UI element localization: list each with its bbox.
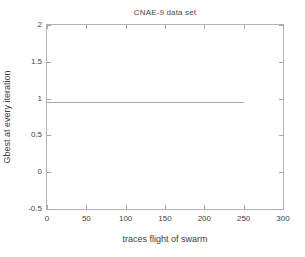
y-axis-tick <box>47 99 51 100</box>
y-axis-tick-mirror <box>279 135 283 136</box>
x-axis-tick <box>244 205 245 209</box>
y-axis-label: Gbest at every iteration <box>2 70 13 163</box>
y-tick-label: 1 <box>2 95 42 103</box>
series-segment <box>106 102 126 103</box>
y-axis-tick-mirror <box>279 209 283 210</box>
x-axis-tick <box>204 205 205 209</box>
y-axis-tick-mirror <box>279 99 283 100</box>
y-tick-label: 0.5 <box>2 131 42 139</box>
x-axis-tick-mirror <box>244 25 245 29</box>
plot-inner <box>47 25 283 209</box>
x-tick-label: 150 <box>150 215 180 223</box>
x-axis-tick-mirror <box>47 25 48 29</box>
x-tick-label: 100 <box>111 215 141 223</box>
x-axis-tick <box>86 205 87 209</box>
x-tick-label: 50 <box>71 215 101 223</box>
x-axis-tick-mirror <box>204 25 205 29</box>
y-axis-tick-mirror <box>279 172 283 173</box>
x-axis-tick <box>165 205 166 209</box>
x-tick-label: 300 <box>268 215 298 223</box>
y-tick-label: 1.5 <box>2 58 42 66</box>
x-axis-tick <box>126 205 127 209</box>
x-axis-tick-mirror <box>283 25 284 29</box>
series-segment <box>204 102 224 103</box>
x-axis-tick-mirror <box>126 25 127 29</box>
x-axis-label: traces flight of swarm <box>46 234 284 245</box>
series-segment <box>86 102 106 103</box>
x-axis-tick <box>283 205 284 209</box>
y-axis-label-container: Gbest at every iteration <box>0 24 14 210</box>
chart-title: CNAE-9 data set <box>46 8 284 18</box>
x-axis-tick-mirror <box>86 25 87 29</box>
x-tick-label: 200 <box>189 215 219 223</box>
y-axis-tick <box>47 172 51 173</box>
series-segment <box>224 102 244 103</box>
series-segment <box>185 102 205 103</box>
plot-area <box>46 24 284 210</box>
series-segment <box>47 102 67 103</box>
x-axis-tick <box>47 205 48 209</box>
y-axis-tick <box>47 62 51 63</box>
y-axis-tick <box>47 209 51 210</box>
y-tick-label: 2 <box>2 21 42 29</box>
y-tick-label: -0.5 <box>2 205 42 213</box>
x-tick-label: 250 <box>229 215 259 223</box>
y-axis-tick-mirror <box>279 62 283 63</box>
x-tick-label: 0 <box>32 215 62 223</box>
figure-canvas: CNAE-9 data set Gbest at every iteration… <box>0 0 305 257</box>
series-segment <box>165 102 185 103</box>
y-tick-label: 0 <box>2 168 42 176</box>
series-segment <box>145 102 165 103</box>
series-segment <box>126 102 146 103</box>
x-axis-tick-mirror <box>165 25 166 29</box>
series-segment <box>67 102 87 103</box>
y-axis-tick <box>47 135 51 136</box>
